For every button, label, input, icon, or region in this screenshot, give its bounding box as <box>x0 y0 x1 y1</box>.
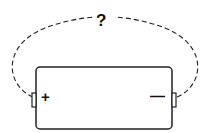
positive-terminal <box>32 93 36 107</box>
positive-label: + <box>41 89 50 104</box>
question-mark-label: ? <box>96 12 106 29</box>
negative-terminal <box>172 93 176 107</box>
negative-label: — <box>150 88 165 103</box>
